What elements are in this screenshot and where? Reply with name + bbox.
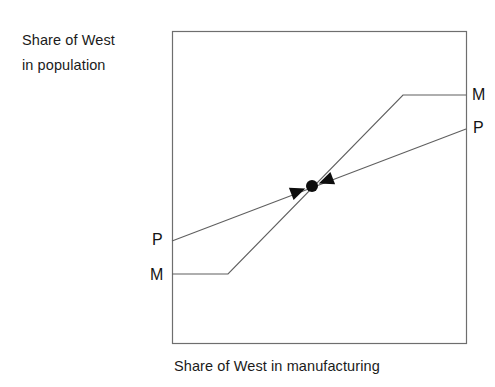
y-axis-label: Share of West in population <box>22 28 115 78</box>
equilibrium-point-marker <box>306 180 318 192</box>
curve-label-m-left: M <box>150 267 163 283</box>
curve-label-p-left: P <box>152 232 163 248</box>
y-axis-label-line-2: in population <box>22 53 115 78</box>
x-axis-label: Share of West in manufacturing <box>174 358 380 374</box>
curve-label-p-right: P <box>473 120 484 136</box>
figure-container: Share of West in population Share of Wes… <box>0 0 495 387</box>
y-axis-label-line-1: Share of West <box>22 28 115 53</box>
curve-label-m-right: M <box>472 87 485 103</box>
plot-frame <box>173 32 467 344</box>
